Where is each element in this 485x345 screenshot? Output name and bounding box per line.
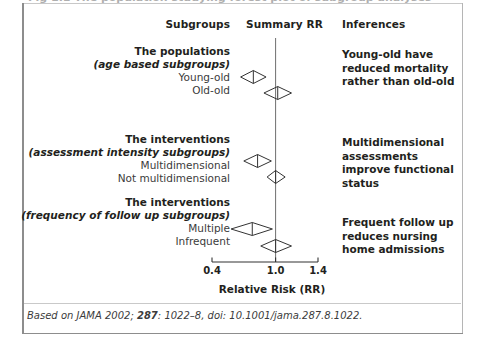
subgroup-row-label: Not multidimensional	[15, 172, 230, 186]
subgroup-title: The interventions	[15, 133, 230, 146]
clipped-caption-text: Fig 1.1 The population studying forest p…	[28, 0, 448, 3]
inference-text-assessment-intensity: Multidimensional assessments improve fun…	[342, 136, 462, 190]
citation-suffix: : 1022–8, doi: 10.1001/jama.287.8.1022.	[158, 310, 363, 321]
x-axis-tick-label: 0.4	[192, 265, 232, 276]
inference-text-populations: Young-old have reduced mortality rather …	[342, 48, 462, 89]
frame-bottom-rule	[22, 333, 463, 334]
summary-diamond-marker	[241, 71, 266, 84]
subgroup-row-label: Multiple	[15, 222, 230, 236]
citation-volume: 287	[137, 310, 158, 321]
x-axis-title: Relative Risk (RR)	[199, 283, 345, 295]
x-axis-tick-label: 1.4	[298, 265, 338, 276]
subgroup-block-populations: The populations (age based subgroups) Yo…	[15, 45, 230, 98]
footer-separator-rule	[24, 303, 461, 304]
x-axis-tick-label: 1.0	[256, 265, 296, 276]
summary-diamond-marker	[261, 240, 292, 253]
subgroup-subtitle: (age based subgroups)	[15, 58, 230, 71]
summary-diamond-marker	[244, 155, 272, 168]
subgroup-subtitle: (frequency of follow up subgroups)	[15, 209, 230, 222]
column-header-subgroups: Subgroups	[130, 18, 230, 30]
subgroup-subtitle: (assessment intensity subgroups)	[15, 146, 230, 159]
frame-top-rule	[22, 3, 463, 4]
subgroup-row-label: Multidimensional	[15, 159, 230, 173]
column-header-summary-rr: Summary RR	[232, 18, 337, 30]
frame-right-rule	[462, 3, 463, 334]
summary-diamond-marker	[267, 171, 285, 184]
subgroup-block-assessment-intensity: The interventions (assessment intensity …	[15, 133, 230, 186]
subgroup-row-label: Old-old	[15, 84, 230, 98]
source-citation: Based on JAMA 2002; 287: 1022–8, doi: 10…	[27, 310, 362, 321]
citation-prefix: Based on JAMA 2002;	[27, 310, 137, 321]
inference-text-followup-frequency: Frequent follow up reduces nursing home …	[342, 216, 462, 257]
subgroup-title: The interventions	[15, 196, 230, 209]
forest-plot-figure: Fig 1.1 The population studying forest p…	[0, 0, 485, 345]
column-header-inferences: Inferences	[342, 18, 452, 30]
subgroup-block-followup-frequency: The interventions (frequency of follow u…	[15, 196, 230, 249]
subgroup-row-label: Infrequent	[15, 235, 230, 249]
summary-diamond-marker	[231, 223, 272, 236]
subgroup-title: The populations	[15, 45, 230, 58]
summary-diamond-marker	[264, 87, 292, 100]
subgroup-row-label: Young-old	[15, 71, 230, 85]
